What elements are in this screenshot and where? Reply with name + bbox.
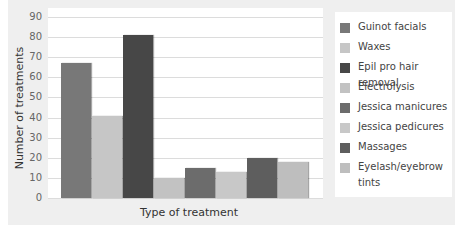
bar-jessica-pedicures xyxy=(216,172,246,198)
y-tick-label: 10 xyxy=(16,173,42,183)
legend-swatch-icon xyxy=(340,163,350,173)
legend-swatch-icon xyxy=(340,103,350,113)
y-tick-label: 80 xyxy=(16,32,42,42)
bar-waxes xyxy=(92,116,122,198)
legend-label: Eyelash/eyebrow tints xyxy=(358,159,453,191)
bar-epil-pro-hair-removal xyxy=(123,35,153,198)
legend-item: Massages xyxy=(340,142,453,155)
legend-swatch-icon xyxy=(340,43,350,53)
bar-guinot-facials xyxy=(61,63,91,198)
legend-swatch-icon xyxy=(340,123,350,133)
legend-item: Waxes xyxy=(340,42,453,55)
legend-item: Jessica manicures xyxy=(340,102,453,115)
legend-swatch-icon xyxy=(340,23,350,33)
bar-jessica-manicures xyxy=(185,168,215,198)
legend-swatch-icon xyxy=(340,143,350,153)
legend-swatch-icon xyxy=(340,63,350,73)
legend-swatch-icon xyxy=(340,83,350,93)
gridline xyxy=(48,198,323,199)
gridline xyxy=(48,17,323,18)
y-axis-label: Number of treatments xyxy=(13,47,26,170)
y-tick-label: 90 xyxy=(16,12,42,22)
gridline xyxy=(48,37,323,38)
legend-label: Electrolysis xyxy=(358,79,453,95)
legend-label: Guinot facials xyxy=(358,19,453,35)
legend-label: Massages xyxy=(358,139,453,155)
legend-label: Jessica manicures xyxy=(358,99,453,115)
legend-label: Waxes xyxy=(358,39,453,55)
legend-item: Guinot facials xyxy=(340,22,453,35)
legend: Guinot facialsWaxesEpil pro hair removal… xyxy=(335,12,452,197)
y-tick-label: 0 xyxy=(16,193,42,203)
legend-item: Eyelash/eyebrow tints xyxy=(340,162,453,191)
gridline xyxy=(48,57,323,58)
bar-eyelash-eyebrow-tints xyxy=(278,162,308,198)
bar-massages xyxy=(247,158,277,198)
legend-item: Jessica pedicures xyxy=(340,122,453,135)
legend-label: Jessica pedicures xyxy=(358,119,453,135)
x-axis-label: Type of treatment xyxy=(140,206,238,219)
bar-electrolysis xyxy=(154,178,184,198)
legend-item: Electrolysis xyxy=(340,82,453,95)
